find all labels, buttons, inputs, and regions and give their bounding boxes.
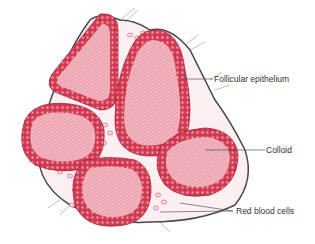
thyroid-follicle-diagram: Follicular epithelium Colloid Red blood … [0,0,315,244]
label-colloid: Colloid [266,145,292,155]
follicle-bottom-center [73,158,151,227]
label-red-blood-cells: Red blood cells [236,206,294,216]
label-follicular-epithelium: Follicular epithelium [214,74,289,84]
